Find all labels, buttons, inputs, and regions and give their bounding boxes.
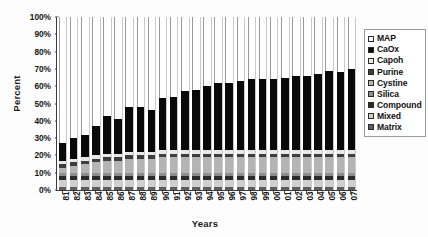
bar-segment-map xyxy=(303,17,311,76)
legend-item: Silica xyxy=(368,88,423,99)
bar-segment-mixed xyxy=(192,180,200,187)
stacked-bar xyxy=(92,17,100,190)
x-axis-tick: 81 xyxy=(56,191,67,217)
bar-segment-caox xyxy=(114,119,122,154)
stacked-bar xyxy=(270,17,278,190)
bar-slot xyxy=(190,17,201,190)
legend-swatch-map xyxy=(368,36,374,42)
bar-slot xyxy=(146,17,157,190)
bar-segment-map xyxy=(225,17,233,83)
bar-segment-matrix xyxy=(237,187,245,190)
bar-slot xyxy=(213,17,224,190)
bar-slot xyxy=(157,17,168,190)
bar-group xyxy=(57,17,357,190)
x-axis-tick: 03 xyxy=(300,191,311,217)
bar-segment-cystine xyxy=(281,157,289,173)
bar-segment-map xyxy=(292,17,300,76)
x-axis-tick: 05 xyxy=(323,191,334,217)
y-axis-tick-label: 80% xyxy=(13,47,51,57)
legend-item: Matrix xyxy=(368,122,423,133)
bar-slot xyxy=(101,17,112,190)
bar-segment-matrix xyxy=(103,187,111,190)
bar-segment-matrix xyxy=(314,187,322,190)
bar-segment-caox xyxy=(81,135,89,157)
bar-segment-caox xyxy=(159,98,167,150)
bar-segment-cystine xyxy=(92,162,100,172)
bar-segment-mixed xyxy=(314,180,322,187)
legend-item: CaOx xyxy=(368,44,423,55)
x-axis-tick: 86 xyxy=(112,191,123,217)
bar-segment-map xyxy=(159,17,167,98)
bar-segment-cystine xyxy=(125,159,133,173)
x-axis-tick: 07 xyxy=(345,191,356,217)
x-axis-tick: 06 xyxy=(334,191,345,217)
bar-segment-caox xyxy=(248,79,256,150)
bar-slot xyxy=(279,17,290,190)
legend-item: Purine xyxy=(368,66,423,77)
bar-segment-cystine xyxy=(70,166,78,173)
legend-label: Capoh xyxy=(377,56,403,65)
bar-segment-caox xyxy=(103,116,111,154)
bar-segment-map xyxy=(248,17,256,79)
x-axis-tick: 97 xyxy=(234,191,245,217)
bar-segment-caox xyxy=(181,91,189,150)
y-axis-tick-label: 70% xyxy=(13,64,51,74)
bar-slot xyxy=(235,17,246,190)
bar-segment-cystine xyxy=(159,157,167,173)
stacked-bar xyxy=(148,17,156,190)
stacked-bar xyxy=(214,17,222,190)
bar-slot xyxy=(90,17,101,190)
bar-segment-matrix xyxy=(270,187,278,190)
bar-slot xyxy=(257,17,268,190)
bar-slot xyxy=(168,17,179,190)
bar-segment-map xyxy=(92,17,100,126)
bar-segment-caox xyxy=(292,76,300,150)
bar-segment-caox xyxy=(203,86,211,150)
bar-segment-caox xyxy=(59,143,67,160)
bar-segment-caox xyxy=(137,107,145,152)
y-axis-tick-label: 50% xyxy=(13,99,51,109)
bar-slot xyxy=(301,17,312,190)
stacked-bar xyxy=(237,17,245,190)
legend-label: Cystine xyxy=(377,79,407,88)
x-axis-tick: 95 xyxy=(212,191,223,217)
legend-swatch-purine xyxy=(368,69,374,75)
bar-segment-matrix xyxy=(225,187,233,190)
legend-label: Mixed xyxy=(377,112,401,121)
legend-item: Cystine xyxy=(368,77,423,88)
bar-slot xyxy=(57,17,68,190)
stacked-bar xyxy=(348,17,356,190)
bar-segment-matrix xyxy=(181,187,189,190)
legend-label: Compound xyxy=(377,101,422,110)
bar-segment-map xyxy=(203,17,211,86)
bar-segment-mixed xyxy=(170,180,178,187)
y-axis-tick-label: 10% xyxy=(13,168,51,178)
bar-segment-matrix xyxy=(325,187,333,190)
bar-slot xyxy=(246,17,257,190)
bar-segment-mixed xyxy=(181,180,189,187)
bar-segment-map xyxy=(181,17,189,91)
bar-segment-caox xyxy=(192,90,200,151)
stacked-bar xyxy=(70,17,78,190)
bar-segment-matrix xyxy=(203,187,211,190)
stacked-bar xyxy=(192,17,200,190)
bar-segment-map xyxy=(114,17,122,119)
bar-segment-cystine xyxy=(203,157,211,173)
stacked-bar xyxy=(59,17,67,190)
stacked-bar xyxy=(337,17,345,190)
bar-segment-matrix xyxy=(170,187,178,190)
bar-segment-caox xyxy=(270,79,278,150)
plot-area xyxy=(56,17,357,191)
bar-segment-cystine xyxy=(81,164,89,173)
bar-segment-matrix xyxy=(281,187,289,190)
bar-segment-map xyxy=(270,17,278,79)
stacked-bar xyxy=(225,17,233,190)
bar-segment-cystine xyxy=(314,157,322,173)
bar-slot xyxy=(346,17,357,190)
bar-segment-caox xyxy=(148,110,156,152)
bar-segment-mixed xyxy=(137,180,145,187)
y-axis-tick-label: 90% xyxy=(13,29,51,39)
bar-segment-cystine xyxy=(325,157,333,173)
bar-segment-map xyxy=(148,17,156,110)
bar-segment-cystine xyxy=(137,159,145,173)
